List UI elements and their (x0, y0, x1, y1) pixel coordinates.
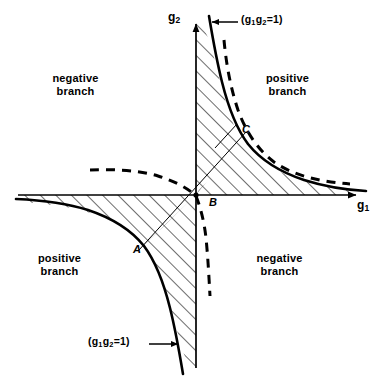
hyperbola-branch-diagram: g2 g1 negative branch positive branch po… (0, 0, 383, 381)
diagram-canvas (0, 0, 383, 381)
region-label-lower-left: positive branch (12, 252, 107, 278)
axis-label-g1: g1 (357, 198, 369, 213)
curve-hyperbola-dashed-quadrant-4 (196, 196, 210, 296)
annotation-bottom-equation: (g1g2=1) (88, 335, 130, 349)
region-label-lower-right: negative branch (232, 252, 327, 278)
curve-hyperbola-dashed-quadrant-2 (90, 170, 196, 196)
point-label-c: C (242, 123, 250, 135)
origin-marker (193, 192, 198, 197)
region-label-upper-left: negative branch (28, 72, 123, 98)
axis-label-g2: g2 (168, 10, 180, 25)
region-label-upper-right: positive branch (240, 72, 335, 98)
point-label-b: B (209, 196, 217, 208)
annotation-top-equation: (g1g2=1) (241, 13, 283, 27)
point-label-a: A (133, 243, 141, 255)
